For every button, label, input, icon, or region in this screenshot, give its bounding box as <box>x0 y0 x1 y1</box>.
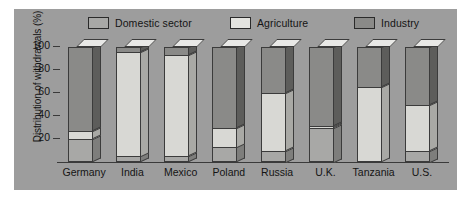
x-tick-label-u-s: U.S. <box>398 166 446 178</box>
legend-swatch-industry <box>354 17 375 29</box>
bar-segment-side <box>382 43 390 87</box>
bar-segment-side <box>382 84 390 162</box>
bar-segment[interactable] <box>164 47 189 55</box>
x-tick-label-russia: Russia <box>253 166 301 178</box>
bar-segment[interactable] <box>405 105 430 151</box>
y-tick-mark-40 <box>53 115 60 116</box>
x-tick-label-germany: Germany <box>60 166 108 178</box>
bar-top-face <box>76 39 109 47</box>
bar-segment-side <box>93 43 101 131</box>
x-axis-line <box>57 162 449 163</box>
plot-area: 10080604020 GermanyIndiaMexicoPolandRuss… <box>60 47 446 162</box>
y-tick-20: 20 <box>16 138 60 139</box>
legend-item-domestic-sector: Domestic sector <box>88 17 192 29</box>
bar-segment[interactable] <box>164 55 189 156</box>
bar-segment[interactable] <box>261 93 286 151</box>
bar-segment[interactable] <box>261 151 286 163</box>
bar-segment-side <box>237 43 245 127</box>
bar-segment[interactable] <box>261 47 286 93</box>
y-tick-40: 40 <box>16 115 60 116</box>
bar-segment[interactable] <box>405 151 430 163</box>
bar-group[interactable] <box>212 47 245 162</box>
y-tick-label-80: 80 <box>38 62 50 74</box>
y-tick-label-60: 60 <box>38 85 50 97</box>
bar-segment[interactable] <box>116 52 141 157</box>
bar-top-face <box>269 39 302 47</box>
bar-group[interactable] <box>357 47 390 162</box>
x-tick-label-poland: Poland <box>205 166 253 178</box>
y-tick-mark-20 <box>53 138 60 139</box>
bar-segment[interactable] <box>212 47 237 128</box>
legend-label-domestic-sector: Domestic sector <box>115 17 192 29</box>
bar-series-container <box>60 47 446 162</box>
bar-segment[interactable] <box>357 47 382 87</box>
legend-item-agriculture: Agriculture <box>230 17 308 29</box>
chart-panel: Domestic sector Agriculture Industry Dis… <box>14 9 457 190</box>
bar-segment-side <box>141 48 149 156</box>
bar-segment[interactable] <box>116 156 141 162</box>
y-tick-80: 80 <box>16 69 60 70</box>
bar-segment[interactable] <box>309 128 334 163</box>
bar-segment[interactable] <box>357 87 382 162</box>
bar-segment-side <box>430 101 438 151</box>
y-axis-line <box>57 47 58 163</box>
legend-label-agriculture: Agriculture <box>257 17 308 29</box>
bar-stack[interactable] <box>68 47 93 162</box>
bar-segment-side <box>334 124 342 162</box>
bar-stack[interactable] <box>261 47 286 162</box>
bar-segment-side <box>286 89 294 150</box>
bar-stack[interactable] <box>357 47 382 162</box>
figure-canvas: Domestic sector Agriculture Industry Dis… <box>0 0 470 199</box>
y-tick-label-20: 20 <box>38 131 50 143</box>
bar-segment-side <box>430 43 438 104</box>
bar-segment-side <box>189 51 197 156</box>
bar-segment-side <box>237 124 245 147</box>
x-tick-label-mexico: Mexico <box>157 166 205 178</box>
bar-segment[interactable] <box>116 47 141 52</box>
y-tick-label-40: 40 <box>38 108 50 120</box>
x-tick-label-tanzania: Tanzania <box>350 166 398 178</box>
bar-stack[interactable] <box>164 47 189 162</box>
bar-segment[interactable] <box>405 47 430 105</box>
x-tick-label-india: India <box>108 166 156 178</box>
bar-top-face <box>220 39 253 47</box>
legend-swatch-domestic-sector <box>88 17 109 29</box>
x-tick-label-u-k: U.K. <box>301 166 349 178</box>
y-tick-mark-60 <box>53 92 60 93</box>
bar-segment[interactable] <box>309 126 334 127</box>
y-tick-60: 60 <box>16 92 60 93</box>
bar-stack[interactable] <box>116 47 141 162</box>
y-tick-label-100: 100 <box>32 39 50 51</box>
bar-top-face <box>124 39 157 47</box>
bar-segment[interactable] <box>68 131 93 139</box>
y-tick-100: 100 <box>16 46 60 47</box>
y-tick-mark-80 <box>53 69 60 70</box>
bar-segment[interactable] <box>212 128 237 148</box>
bar-segment[interactable] <box>164 156 189 162</box>
bar-stack[interactable] <box>405 47 430 162</box>
bar-segment[interactable] <box>212 147 237 162</box>
bar-top-face <box>317 39 350 47</box>
bar-group[interactable] <box>405 47 438 162</box>
bar-segment-side <box>93 135 101 162</box>
bar-segment[interactable] <box>309 47 334 126</box>
bar-segment[interactable] <box>68 139 93 162</box>
bar-stack[interactable] <box>212 47 237 162</box>
bar-top-face <box>172 39 205 47</box>
legend-swatch-agriculture <box>230 17 251 29</box>
bar-group[interactable] <box>309 47 342 162</box>
bar-top-face <box>365 39 398 47</box>
bar-group[interactable] <box>261 47 294 162</box>
y-tick-mark-100 <box>53 46 60 47</box>
bar-group[interactable] <box>164 47 197 162</box>
legend-item-industry: Industry <box>354 17 419 29</box>
bar-top-face <box>413 39 446 47</box>
bar-stack[interactable] <box>309 47 334 162</box>
legend-label-industry: Industry <box>381 17 419 29</box>
chart-legend: Domestic sector Agriculture Industry <box>14 15 457 37</box>
bar-group[interactable] <box>68 47 101 162</box>
bar-segment-side <box>334 43 342 126</box>
bar-group[interactable] <box>116 47 149 162</box>
bar-segment[interactable] <box>68 47 93 131</box>
y-axis-title: Distribution of withdrawals (%) <box>32 2 43 152</box>
